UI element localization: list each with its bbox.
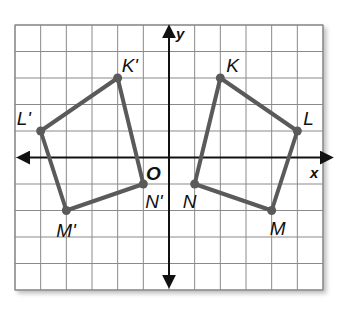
vertex-point	[62, 206, 71, 215]
vertex-point	[216, 74, 225, 83]
vertex-point	[293, 127, 302, 136]
vertex-point	[267, 206, 276, 215]
vertex-label: M'	[56, 220, 77, 241]
coordinate-grid: xyO KLMNK'L'M'N'	[0, 0, 340, 316]
y-axis-label: y	[175, 25, 185, 42]
vertex-point	[139, 180, 148, 189]
vertex-label: L'	[17, 108, 33, 129]
vertex-label: N'	[145, 191, 164, 212]
vertex-point	[36, 127, 45, 136]
vertex-label: K	[226, 55, 240, 76]
vertex-label: L	[303, 108, 314, 129]
vertex-label: K'	[122, 55, 140, 76]
x-axis-label: x	[309, 164, 319, 181]
origin-label: O	[146, 163, 161, 184]
vertex-point	[190, 180, 199, 189]
vertex-label: M	[270, 218, 286, 239]
vertex-label: N	[183, 191, 197, 212]
